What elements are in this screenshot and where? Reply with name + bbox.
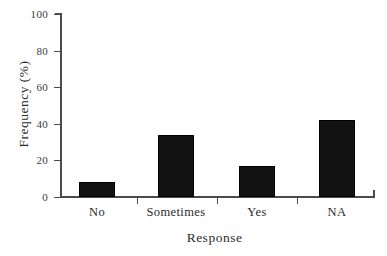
x-label-yes: Yes <box>217 206 297 220</box>
bar-yes <box>239 166 275 197</box>
y-tick-label-0: 0 <box>8 192 48 203</box>
y-tick-0 <box>54 197 61 198</box>
x-label-sometimes: Sometimes <box>136 206 216 220</box>
x-axis-title: Response <box>0 230 387 246</box>
bar-sometimes <box>158 135 194 197</box>
y-tick-60 <box>54 87 61 88</box>
y-tick-100 <box>54 14 61 15</box>
bar-na <box>319 120 355 197</box>
x-label-no: No <box>57 206 137 220</box>
x-axis-right-cap <box>373 190 375 197</box>
y-axis-line <box>60 13 62 198</box>
y-tick-80 <box>54 51 61 52</box>
x-tick-1 <box>137 198 138 204</box>
x-tick-2 <box>217 198 218 204</box>
y-tick-40 <box>54 124 61 125</box>
bar-chart-figure: 0 20 40 60 80 100 No Sometimes Yes NA Re… <box>0 0 387 256</box>
y-axis-title: Frequency (%) <box>16 29 32 179</box>
x-tick-3 <box>297 198 298 204</box>
y-tick-20 <box>54 160 61 161</box>
bar-no <box>79 182 115 197</box>
y-tick-label-100: 100 <box>8 9 48 20</box>
x-label-na: NA <box>297 206 377 220</box>
